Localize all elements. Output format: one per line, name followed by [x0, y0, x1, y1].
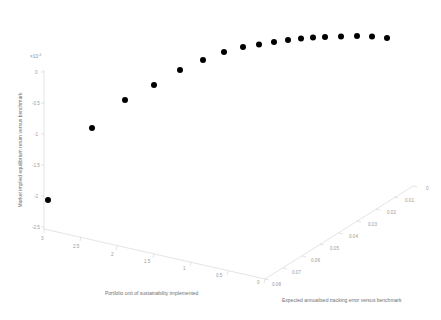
data-point-marker: [200, 57, 206, 63]
data-point-marker: [221, 49, 227, 55]
data-point-marker: [45, 197, 51, 203]
tick-mark: [376, 209, 380, 210]
tick-mark: [190, 262, 191, 266]
data-point-marker: [122, 97, 128, 103]
axis-lines-group: [44, 70, 413, 279]
data-point-marker: [298, 36, 304, 42]
axis-tick-label: -2: [34, 194, 39, 199]
data-point-marker: [384, 35, 390, 41]
tick-mark: [265, 279, 269, 280]
data-point-marker: [151, 82, 157, 88]
z-axis-title: Expected annualised tracking error versu…: [282, 297, 402, 303]
axis-tick-label: 0.02: [387, 210, 396, 215]
data-point-marker: [177, 67, 183, 73]
axis-tick-label: -0.5: [32, 101, 40, 106]
data-point-marker: [338, 34, 344, 40]
axis-tick-label: 0.06: [311, 258, 320, 263]
z-axis-line: [265, 186, 413, 279]
tick-mark: [153, 254, 154, 258]
axis-titles-group: Portfolio unit of sustainability impleme…: [17, 92, 402, 303]
axis-tick-label: 2.5: [73, 244, 80, 249]
tick-mark: [302, 256, 306, 257]
scatter-plot-3d: 0-0.5-1-1.5-2-2.532.521.510.500.080.070.…: [0, 0, 441, 320]
axis-tick-label: 0.03: [368, 222, 377, 227]
tick-marks-group: [41, 72, 417, 283]
tick-mark: [357, 221, 361, 222]
axis-tick-label: 0.5: [216, 273, 223, 278]
axis-tick-label: 0.04: [349, 234, 358, 239]
tick-mark: [227, 271, 228, 275]
axis-tick-label: -2.5: [32, 225, 40, 230]
axis-tick-label: 2: [111, 252, 114, 257]
tick-mark: [116, 246, 117, 250]
tick-mark: [283, 268, 287, 269]
data-point-marker: [89, 125, 95, 131]
data-point-marker: [256, 42, 262, 48]
axis-tick-label: -1.5: [32, 163, 40, 168]
tick-labels-group: 0-0.5-1-1.5-2-2.532.521.510.500.080.070.…: [30, 53, 429, 287]
axis-tick-label: 0.05: [330, 246, 339, 251]
data-point-marker: [369, 34, 375, 40]
axis-tick-label: 1: [183, 266, 186, 271]
x-axis-title: Portfolio unit of sustainability impleme…: [105, 290, 199, 296]
axis-tick-label: 0: [35, 70, 38, 75]
data-point-marker: [285, 37, 291, 43]
tick-mark: [320, 244, 324, 245]
tick-mark: [339, 233, 343, 234]
axis-tick-label: 0: [257, 280, 260, 285]
axis-tick-label: -1: [34, 132, 39, 137]
data-markers-group: [45, 33, 390, 203]
y-axis-exponent-label: ×10-3: [30, 53, 41, 59]
tick-mark: [413, 186, 417, 187]
data-point-marker: [240, 44, 246, 50]
axis-tick-label: 0: [426, 186, 429, 191]
tick-mark: [264, 279, 265, 283]
x-axis-line: [44, 229, 265, 279]
y-axis-title: Market implied equilibrium return versus…: [17, 92, 23, 207]
axis-tick-label: 0.01: [405, 198, 414, 203]
data-point-marker: [310, 35, 316, 41]
data-point-marker: [354, 33, 360, 39]
data-point-marker: [322, 34, 328, 40]
axis-tick-label: 1.5: [144, 259, 151, 264]
axis-tick-label: 3: [41, 236, 44, 241]
figure-canvas: 0-0.5-1-1.5-2-2.532.521.510.500.080.070.…: [0, 0, 441, 320]
axis-tick-label: 0.08: [272, 282, 281, 287]
axis-tick-label: 0.07: [292, 270, 301, 275]
data-point-marker: [271, 39, 277, 45]
